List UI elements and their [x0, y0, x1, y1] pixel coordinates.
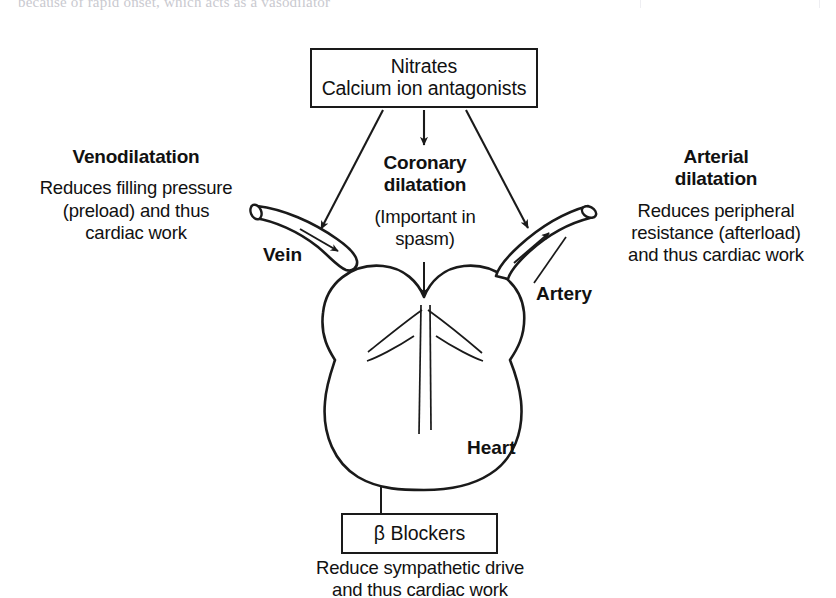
anti-anginal-drug-diagram: because of rapid onset, which acts as a … — [0, 0, 836, 598]
coronary-line-1: (Important in — [337, 206, 513, 228]
beta-caption-line-2: and thus cardiac work — [300, 579, 540, 598]
drug-box-line-1: Nitrates — [391, 56, 457, 78]
venodilatation-block: Venodilatation Reduces filling pressure … — [18, 146, 254, 244]
coronary-line-2: spasm) — [337, 228, 513, 250]
drug-box[interactable]: Nitrates Calcium ion antagonists — [310, 48, 538, 108]
spacer — [337, 197, 513, 206]
drug-box-line-2: Calcium ion antagonists — [322, 78, 527, 100]
beta-blockers-box[interactable]: β Blockers — [341, 513, 498, 554]
coronary-heading-line-2: dilatation — [337, 174, 513, 196]
arterial-line-1: Reduces peripheral — [596, 200, 836, 222]
coronary-heading-line-1: Coronary — [337, 152, 513, 174]
arterial-line-2: resistance (afterload) — [596, 222, 836, 244]
beta-caption-line-1: Reduce sympathetic drive — [300, 557, 540, 579]
coronary-dilatation-block: Coronary dilatation (Important in spasm) — [337, 152, 513, 250]
beta-blockers-label: β Blockers — [374, 522, 465, 545]
artery-label: Artery — [536, 283, 592, 305]
spacer — [18, 168, 254, 177]
venodilatation-heading: Venodilatation — [18, 146, 254, 168]
venodilatation-line-3: cardiac work — [18, 222, 254, 244]
venodilatation-line-1: Reduces filling pressure — [18, 177, 254, 199]
spacer — [596, 191, 836, 200]
arterial-heading-line-2: dilatation — [596, 168, 836, 190]
arterial-line-3: and thus cardiac work — [596, 244, 836, 266]
arterial-heading-line-1: Arterial — [596, 146, 836, 168]
arterial-dilatation-block: Arterial dilatation Reduces peripheral r… — [596, 146, 836, 266]
beta-blockers-caption: Reduce sympathetic drive and thus cardia… — [300, 557, 540, 598]
venodilatation-line-2: (preload) and thus — [18, 200, 254, 222]
vein-label: Vein — [263, 244, 302, 266]
heart-label: Heart — [467, 437, 516, 459]
